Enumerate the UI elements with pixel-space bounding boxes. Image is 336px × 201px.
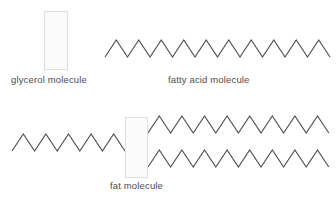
fatty-acid-chain (105, 40, 330, 57)
glycerol-molecule-box (44, 11, 68, 70)
fat-glycerol-backbone-box (125, 117, 148, 178)
diagram-canvas: glycerol molecule fatty acid molecule fa… (0, 0, 336, 201)
fat-lower-right-chain (148, 150, 329, 167)
fatty-acid-label: fatty acid molecule (168, 74, 250, 85)
fat-left-chain (12, 134, 125, 151)
fat-molecule-label: fat molecule (110, 180, 163, 191)
glycerol-label: glycerol molecule (11, 74, 87, 85)
fat-upper-right-chain (148, 116, 329, 133)
